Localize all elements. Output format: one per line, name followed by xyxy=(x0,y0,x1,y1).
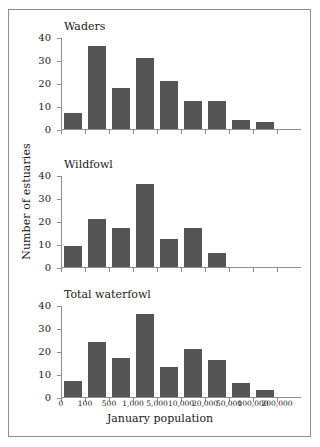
bar-total-waterfowl-0-100 xyxy=(64,381,82,397)
y-axis-tick-total-waterfowl-30: 30 xyxy=(57,329,61,330)
x-axis-tick-wildfowl-0 xyxy=(61,268,62,272)
y-axis-tick-wildfowl-40: 40 xyxy=(57,176,61,177)
bar-total-waterfowl-100,000-200,000 xyxy=(256,390,274,397)
y-axis-tick-label-waders-20: 20 xyxy=(38,78,51,89)
plot-area-waders: 010203040 xyxy=(61,38,301,130)
y-axis-tick-total-waterfowl-40: 40 xyxy=(57,306,61,307)
bar-waders-100,000-200,000 xyxy=(256,122,274,129)
x-axis-tick-wildfowl-1 xyxy=(85,268,86,272)
x-axis-tick-label-0: 0 xyxy=(59,399,64,408)
y-axis-tick-label-total-waterfowl-20: 20 xyxy=(38,346,51,357)
y-axis-tick-label-total-waterfowl-10: 10 xyxy=(38,369,51,380)
y-axis-tick-wildfowl-30: 30 xyxy=(57,199,61,200)
x-axis-tick-labels: 01005001,0005,00010,00020,00050,000100,0… xyxy=(61,399,311,411)
panel-title-wildfowl: Wildfowl xyxy=(64,158,113,171)
x-axis-tick-waders-4 xyxy=(157,130,158,134)
x-axis-tick-waders-9 xyxy=(277,130,278,134)
y-axis-line-waders xyxy=(61,38,62,130)
bar-wildfowl-1,000-5,000 xyxy=(136,184,154,267)
plot-area-wildfowl: 010203040 xyxy=(61,176,301,268)
y-axis-tick-waders-20: 20 xyxy=(57,84,61,85)
bar-waders-500-1,000 xyxy=(112,88,130,129)
bar-waders-5,000-10,000 xyxy=(160,81,178,129)
y-axis-title: Number of estuaries xyxy=(20,127,33,277)
y-axis-tick-label-wildfowl-10: 10 xyxy=(38,239,51,250)
y-axis-line-total-waterfowl xyxy=(61,306,62,398)
x-axis-tick-waders-7 xyxy=(229,130,230,134)
y-axis-tick-label-total-waterfowl-40: 40 xyxy=(38,300,51,311)
y-axis-tick-label-waders-30: 30 xyxy=(38,55,51,66)
y-axis-tick-waders-10: 10 xyxy=(57,107,61,108)
bar-waders-1,000-5,000 xyxy=(136,58,154,129)
bar-wildfowl-20,000-50,000 xyxy=(208,253,226,267)
bar-waders-100-500 xyxy=(88,46,106,129)
y-axis-tick-label-wildfowl-40: 40 xyxy=(38,170,51,181)
x-axis-tick-wildfowl-3 xyxy=(133,268,134,272)
y-axis-tick-label-total-waterfowl-0: 0 xyxy=(45,392,51,403)
x-axis-tick-wildfowl-5 xyxy=(181,268,182,272)
x-axis-tick-waders-3 xyxy=(133,130,134,134)
figure-histogram-panels: Number of estuaries Waders 010203040 Wil… xyxy=(0,0,320,447)
y-axis-tick-wildfowl-20: 20 xyxy=(57,222,61,223)
y-axis-tick-total-waterfowl-10: 10 xyxy=(57,375,61,376)
y-axis-tick-waders-30: 30 xyxy=(57,61,61,62)
bar-waders-20,000-50,000 xyxy=(208,101,226,129)
bar-total-waterfowl-500-1,000 xyxy=(112,358,130,397)
panel-title-waders: Waders xyxy=(64,20,105,33)
y-axis-tick-label-waders-40: 40 xyxy=(38,32,51,43)
panel-title-total-waterfowl: Total waterfowl xyxy=(64,288,151,301)
x-axis-tick-waders-2 xyxy=(109,130,110,134)
y-axis-tick-waders-40: 40 xyxy=(57,38,61,39)
bar-waders-50,000-100,000 xyxy=(232,120,250,129)
x-axis-tick-waders-6 xyxy=(205,130,206,134)
x-axis-tick-label-2: 500 xyxy=(102,399,116,408)
x-axis-tick-waders-8 xyxy=(253,130,254,134)
x-axis-tick-wildfowl-6 xyxy=(205,268,206,272)
y-axis-tick-label-wildfowl-20: 20 xyxy=(38,216,51,227)
x-axis-tick-waders-5 xyxy=(181,130,182,134)
bar-total-waterfowl-50,000-100,000 xyxy=(232,383,250,397)
x-axis-tick-waders-1 xyxy=(85,130,86,134)
bar-total-waterfowl-1,000-5,000 xyxy=(136,314,154,397)
x-axis-tick-wildfowl-4 xyxy=(157,268,158,272)
x-axis-tick-waders-0 xyxy=(61,130,62,134)
bar-wildfowl-10,000-20,000 xyxy=(184,228,202,267)
bar-total-waterfowl-100-500 xyxy=(88,342,106,397)
bar-wildfowl-100-500 xyxy=(88,219,106,267)
x-axis-tick-wildfowl-8 xyxy=(253,268,254,272)
x-axis-tick-wildfowl-7 xyxy=(229,268,230,272)
x-axis-tick-label-6: 20,000 xyxy=(192,399,218,408)
x-axis-tick-wildfowl-2 xyxy=(109,268,110,272)
bar-wildfowl-0-100 xyxy=(64,246,82,267)
x-axis-tick-label-3: 1,000 xyxy=(122,399,143,408)
bar-total-waterfowl-20,000-50,000 xyxy=(208,360,226,397)
y-axis-tick-label-total-waterfowl-30: 30 xyxy=(38,323,51,334)
y-axis-tick-wildfowl-10: 10 xyxy=(57,245,61,246)
bar-total-waterfowl-10,000-20,000 xyxy=(184,349,202,397)
y-axis-line-wildfowl xyxy=(61,176,62,268)
x-axis-tick-label-4: 5,000 xyxy=(146,399,167,408)
bar-waders-0-100 xyxy=(64,113,82,129)
bar-total-waterfowl-5,000-10,000 xyxy=(160,367,178,397)
x-axis-tick-label-9: 200,000 xyxy=(261,399,292,408)
y-axis-tick-label-wildfowl-30: 30 xyxy=(38,193,51,204)
bar-wildfowl-500-1,000 xyxy=(112,228,130,267)
y-axis-tick-label-waders-10: 10 xyxy=(38,101,51,112)
x-axis-tick-label-1: 100 xyxy=(78,399,92,408)
y-axis-tick-label-wildfowl-0: 0 xyxy=(45,262,51,273)
bar-wildfowl-5,000-10,000 xyxy=(160,239,178,267)
x-axis-title: January population xyxy=(0,412,320,425)
y-axis-tick-total-waterfowl-20: 20 xyxy=(57,352,61,353)
x-axis-tick-label-5: 10,000 xyxy=(168,399,194,408)
bar-waders-10,000-20,000 xyxy=(184,101,202,129)
plot-area-total-waterfowl: 010203040 xyxy=(61,306,301,398)
x-axis-tick-wildfowl-9 xyxy=(277,268,278,272)
y-axis-tick-label-waders-0: 0 xyxy=(45,124,51,135)
